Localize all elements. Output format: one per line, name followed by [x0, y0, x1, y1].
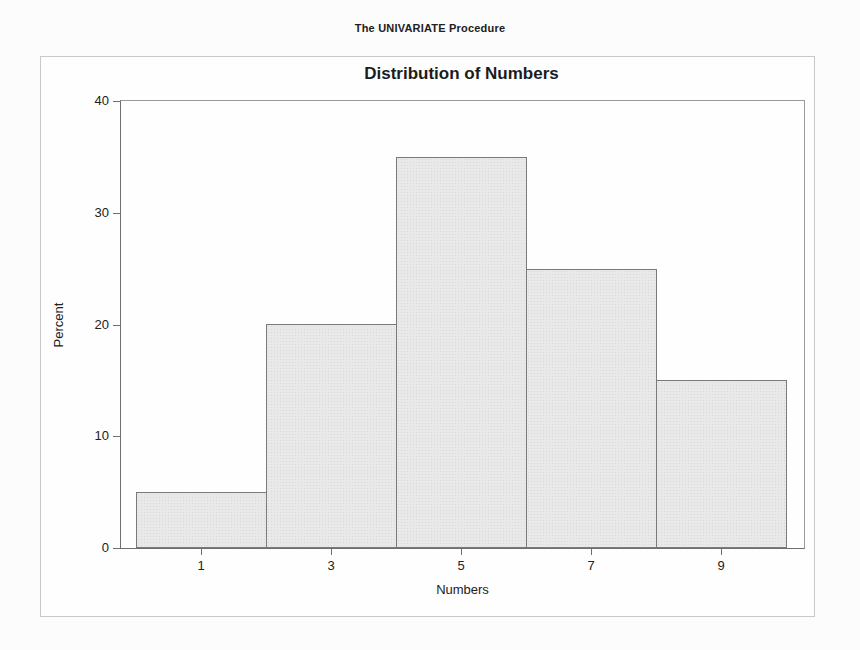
x-tick-label-7: 7: [571, 558, 611, 573]
x-tick-label-3: 3: [311, 558, 351, 573]
x-tick-mark-9: [721, 549, 722, 555]
y-tick-label-10: 10: [71, 428, 109, 444]
y-tick-label-0: 0: [71, 540, 109, 556]
y-tick-mark-20: [113, 325, 120, 326]
histogram-bar-5: [396, 157, 527, 548]
y-tick-mark-0: [113, 548, 120, 549]
x-axis-label: Numbers: [121, 582, 804, 597]
chart-output-frame: Distribution of Numbers Percent Numbers …: [40, 56, 815, 617]
y-tick-label-20: 20: [71, 317, 109, 333]
y-axis-label: Percent: [51, 301, 71, 349]
x-tick-label-1: 1: [181, 558, 221, 573]
x-tick-mark-5: [461, 549, 462, 555]
x-tick-label-9: 9: [701, 558, 741, 573]
histogram-bar-3: [266, 324, 397, 548]
histogram-bar-1: [136, 492, 267, 548]
chart-title: Distribution of Numbers: [120, 64, 803, 84]
y-tick-mark-30: [113, 213, 120, 214]
x-tick-mark-1: [201, 549, 202, 555]
x-tick-label-5: 5: [441, 558, 481, 573]
y-tick-label-30: 30: [71, 205, 109, 221]
y-tick-label-40: 40: [71, 93, 109, 109]
plot-area: Percent Numbers 13579010203040: [120, 100, 805, 549]
page: The UNIVARIATE Procedure Distribution of…: [0, 0, 860, 650]
y-tick-mark-40: [113, 101, 120, 102]
histogram-bar-9: [656, 380, 787, 548]
x-tick-mark-3: [331, 549, 332, 555]
x-tick-mark-7: [591, 549, 592, 555]
histogram-bar-7: [526, 269, 657, 548]
procedure-title: The UNIVARIATE Procedure: [0, 22, 860, 34]
y-tick-mark-10: [113, 436, 120, 437]
